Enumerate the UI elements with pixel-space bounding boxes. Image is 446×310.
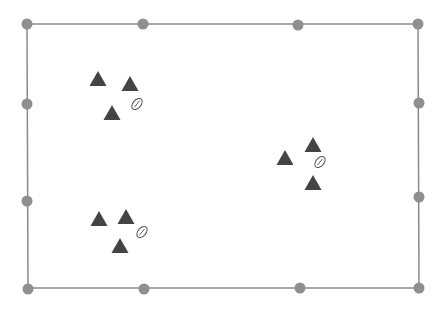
resize-handle-icon[interactable] (293, 20, 304, 31)
resize-handle-icon[interactable] (414, 98, 425, 109)
resize-handle-icon[interactable] (23, 284, 34, 295)
selection-frame[interactable] (27, 24, 419, 288)
group-right[interactable] (277, 137, 328, 190)
resize-handle-icon[interactable] (295, 283, 306, 294)
resize-handle-icon[interactable] (139, 284, 150, 295)
triangle-marker-icon[interactable] (305, 137, 322, 152)
group-top-left[interactable] (90, 71, 145, 120)
triangle-marker-icon[interactable] (104, 105, 121, 120)
resize-handle-icon[interactable] (413, 19, 424, 30)
triangle-marker-icon[interactable] (90, 71, 107, 86)
triangle-marker-icon[interactable] (91, 211, 108, 226)
resize-handle-icon[interactable] (22, 19, 33, 30)
resize-handle-icon[interactable] (22, 99, 33, 110)
triangle-marker-icon[interactable] (122, 76, 139, 91)
triangle-marker-icon[interactable] (305, 175, 322, 190)
resize-handle-icon[interactable] (138, 19, 149, 30)
football-icon[interactable] (313, 154, 327, 169)
triangle-marker-icon[interactable] (112, 238, 129, 253)
resize-handle-icon[interactable] (22, 196, 33, 207)
group-bottom-left[interactable] (91, 209, 150, 253)
football-icon[interactable] (130, 96, 144, 111)
resize-handle-icon[interactable] (414, 283, 425, 294)
resize-handles (22, 19, 425, 295)
resize-handle-icon[interactable] (414, 192, 425, 203)
triangle-marker-icon[interactable] (118, 209, 135, 224)
triangle-marker-icon[interactable] (277, 150, 294, 165)
formation-canvas[interactable] (0, 0, 446, 310)
football-icon[interactable] (135, 224, 149, 239)
player-groups (90, 71, 328, 253)
